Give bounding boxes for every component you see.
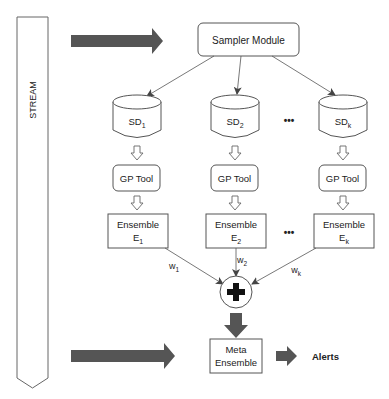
svg-text:GP Tool: GP Tool: [326, 173, 359, 184]
svg-text:GP Tool: GP Tool: [218, 173, 251, 184]
svg-text:Meta: Meta: [225, 344, 247, 355]
subset-2-cylinder: SD2: [211, 95, 259, 138]
combiner-plus-icon: [220, 276, 252, 308]
svg-text:GP Tool: GP Tool: [120, 173, 153, 184]
subset-2-label: SD: [226, 116, 239, 127]
stream-label: STREAM: [28, 81, 38, 119]
input-arrow-bottom-icon: [71, 343, 175, 369]
hollow-down-arrow-icon: [131, 196, 143, 210]
svg-text:Ensemble: Ensemble: [215, 219, 257, 230]
gp-tool-1: GP Tool: [113, 165, 160, 191]
ellipsis-ensembles: •••: [284, 227, 295, 238]
meta-ensemble: Meta Ensemble: [210, 339, 262, 373]
hollow-down-arrow-icon: [337, 146, 349, 160]
hollow-down-arrow-icon: [229, 146, 241, 160]
output-arrow-icon: [276, 346, 297, 366]
subset-1-label: SD: [128, 116, 141, 127]
sampler-module-label: Sampler Module: [212, 35, 285, 46]
hollow-down-arrow-icon: [229, 196, 241, 210]
stream-band: STREAM: [17, 17, 48, 388]
ensemble-k: Ensemble Ek: [314, 214, 374, 248]
weight-1-label: w1: [168, 261, 180, 273]
hollow-down-arrow-icon: [337, 196, 349, 210]
weight-k-label: wk: [290, 265, 302, 277]
ellipsis-subsets: •••: [284, 115, 295, 126]
hollow-down-arrow-icon: [131, 146, 143, 160]
input-arrow-top-icon: [71, 28, 163, 54]
subset-k-cylinder: SDk: [319, 95, 367, 138]
subset-k-label: SD: [335, 116, 348, 127]
ensemble-1: Ensemble E1: [108, 214, 168, 248]
svg-text:Ensemble: Ensemble: [323, 219, 365, 230]
weight-2-label: w2: [236, 255, 248, 267]
svg-text:Ensemble: Ensemble: [117, 219, 159, 230]
gp-tool-k: GP Tool: [319, 165, 366, 191]
alerts-label: Alerts: [312, 351, 339, 362]
svg-text:Ensemble: Ensemble: [215, 357, 257, 368]
ensemble-2: Ensemble E2: [206, 214, 266, 248]
subset-1-cylinder: SD1: [113, 95, 161, 138]
down-arrow-icon: [224, 313, 248, 338]
diagram-canvas: STREAM Sampler Module SD1 SD2 SDk •••: [0, 0, 389, 399]
gp-tool-2: GP Tool: [211, 165, 258, 191]
sampler-module: Sampler Module: [198, 23, 299, 56]
